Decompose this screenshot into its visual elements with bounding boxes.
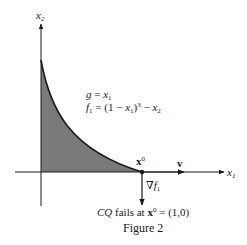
gradient-label: ∇f1: [146, 180, 160, 193]
v-label: v: [177, 158, 183, 169]
caption-line: CQ fails at x0 = (1,0): [97, 207, 189, 218]
feasible-region: [41, 60, 142, 172]
point-x0: [140, 170, 144, 174]
x2-axis-label: x2: [36, 10, 44, 23]
equation-f1: f1 = (1 − x1)3 − x2: [86, 102, 161, 115]
point-x0-label: x0: [136, 156, 145, 167]
x1-axis-label: x1: [227, 167, 235, 180]
figure-title: Figure 2: [123, 222, 163, 234]
